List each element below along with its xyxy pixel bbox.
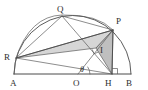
segment-qp	[62, 16, 113, 30]
label-b: B	[126, 78, 132, 88]
label-i: I	[100, 45, 103, 55]
label-r: R	[4, 52, 10, 62]
label-h: H	[105, 78, 112, 88]
geometry-figure: A B O H P Q R I θ	[0, 0, 148, 90]
label-q: Q	[57, 4, 64, 14]
segment-rh	[16, 58, 112, 74]
geometry-canvas: A B O H P Q R I θ	[0, 0, 148, 90]
right-angle-mark-h	[112, 69, 118, 75]
label-a: A	[10, 78, 17, 88]
label-p: P	[116, 16, 121, 26]
label-o: O	[73, 78, 80, 88]
label-theta: θ	[80, 65, 84, 74]
